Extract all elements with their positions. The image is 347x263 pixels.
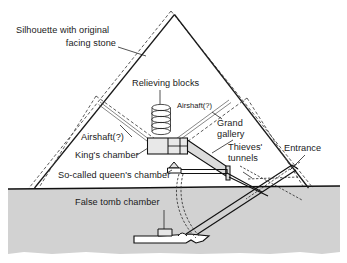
label-false-tomb-chamber: False tomb chamber [75, 197, 160, 207]
bedrock-fill [8, 186, 340, 254]
label-kings-chamber: King's chamber [75, 150, 139, 160]
label-thieves-tunnels-line2: tunnels [228, 153, 258, 163]
bedrock-layer [8, 186, 340, 254]
queens-chamber-gable [169, 162, 179, 168]
relieving-block-2 [152, 110, 171, 116]
relieving-block-4 [152, 122, 171, 128]
grand-gallery-body [188, 140, 227, 176]
relieving-block-5 [152, 128, 170, 134]
leader-entrance [290, 155, 305, 170]
leader-thieves-tunnels [243, 172, 252, 178]
label-airshaft-upper: Airshaft(?) [177, 101, 212, 110]
relieving-block-1 [152, 104, 170, 110]
diagram-canvas: Silhouette with original facing stone Re… [0, 0, 347, 263]
kings-chamber-group [148, 138, 188, 154]
relieving-block-3 [152, 116, 171, 122]
label-grand-gallery-line2: gallery [217, 129, 245, 139]
relieving-blocks-stack [152, 104, 171, 134]
pyramid-cross-section-diagram: Silhouette with original facing stone Re… [0, 0, 347, 263]
label-silhouette-line1: Silhouette with original [16, 25, 109, 35]
leader-silhouette [118, 47, 146, 56]
label-entrance: Entrance [284, 143, 321, 153]
label-relieving-blocks: Relieving blocks [132, 78, 200, 88]
label-silhouette-line2: facing stone [66, 38, 116, 48]
label-queens-chamber: So-called queen's chamber [58, 170, 170, 180]
label-thieves-tunnels-line1: Thieves' [228, 142, 263, 152]
text-labels: Silhouette with original facing stone Re… [16, 25, 321, 207]
label-grand-gallery-line1: Grand [217, 118, 243, 128]
label-airshaft-left: Airshaft(?) [81, 132, 124, 142]
false-tomb-chamber-block [158, 229, 172, 236]
